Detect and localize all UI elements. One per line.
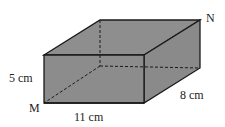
vertex-label-m: M (29, 102, 40, 114)
depth-label: 8 cm (180, 89, 204, 101)
vertex-label-n: N (206, 12, 215, 24)
height-label: 5 cm (9, 72, 33, 84)
length-label: 11 cm (74, 111, 103, 123)
front-face (44, 55, 144, 103)
prism-diagram: N M 5 cm 11 cm 8 cm (0, 0, 225, 127)
